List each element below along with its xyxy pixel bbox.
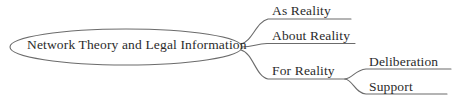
sub-branch-label-support[interactable]: Support [369,80,413,94]
connector-about-reality [242,44,355,48]
mind-map-diagram: Network Theory and Legal Information As … [0,0,452,103]
sub-branch-label-deliberation[interactable]: Deliberation [369,55,438,69]
root-node-label: Network Theory and Legal Information [27,38,227,52]
branch-label-for-reality[interactable]: For Reality [272,64,335,78]
branch-label-about-reality[interactable]: About Reality [272,29,350,43]
connector-deliberation [345,69,451,79]
branch-label-as-reality[interactable]: As Reality [272,4,331,18]
